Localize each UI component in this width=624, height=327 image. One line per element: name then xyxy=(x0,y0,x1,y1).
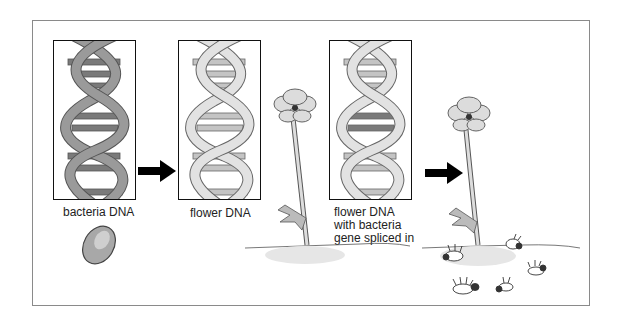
plant-with-insects-icon xyxy=(422,97,580,266)
insect-icon xyxy=(453,277,479,294)
flower-plant-icon xyxy=(245,89,410,264)
insect-icon xyxy=(496,277,513,292)
insect-icon xyxy=(506,234,522,249)
bacterium-icon xyxy=(76,220,122,270)
insect-icon xyxy=(528,260,546,275)
illustration-layer xyxy=(0,0,624,327)
